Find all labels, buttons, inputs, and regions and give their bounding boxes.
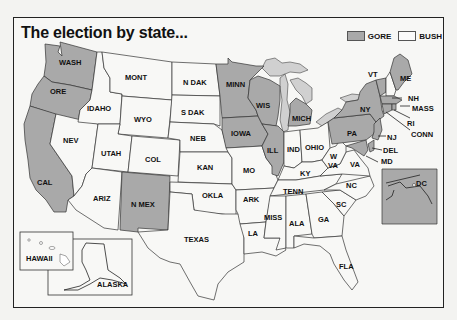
label-mich: MICH — [292, 114, 311, 123]
label-texas: TEXAS — [184, 235, 209, 244]
legend-swatch-gore — [347, 31, 365, 41]
label-wyo: WYO — [134, 115, 152, 124]
label-okla: OKLA — [202, 191, 224, 200]
label-alaska: ALASKA — [97, 280, 129, 289]
label-cal: CAL — [37, 178, 53, 187]
label-ohio: OHIO — [305, 143, 324, 152]
label-neb: NEB — [190, 134, 206, 143]
label-wash: WASH — [59, 58, 82, 67]
label-ark: ARK — [243, 195, 260, 204]
label-nev: NEV — [63, 136, 78, 145]
label-ariz: ARIZ — [93, 194, 111, 203]
label-dc: DC — [416, 179, 427, 188]
label-nh: NH — [408, 94, 419, 103]
label-nc: NC — [346, 181, 357, 190]
lake-huron — [290, 78, 312, 104]
label-wis: WIS — [256, 101, 270, 110]
label-vt: VT — [368, 70, 378, 79]
label-nj: NJ — [387, 133, 397, 142]
label-ndak: N DAK — [183, 78, 207, 87]
legend-swatch-bush — [398, 31, 416, 41]
label-conn: CONN — [411, 130, 433, 139]
label-la: LA — [248, 229, 259, 238]
label-nmex: N MEX — [131, 200, 155, 209]
label-fla: FLA — [339, 262, 354, 271]
label-sdak: S DAK — [181, 108, 205, 117]
label-ala: ALA — [289, 219, 305, 228]
label-wva-va: VA — [328, 161, 338, 170]
label-ga: GA — [318, 215, 330, 224]
label-ind: IND — [287, 145, 301, 154]
label-ill: ILL — [267, 146, 279, 155]
legend-label-gore: GORE — [368, 32, 392, 41]
label-pa: PA — [347, 129, 357, 138]
label-utah: UTAH — [101, 149, 121, 158]
label-ri: RI — [407, 119, 415, 128]
us-election-map: .g { fill:#a9a9a9; stroke:#333; stroke-w… — [0, 0, 457, 320]
label-sc: SC — [336, 200, 347, 209]
label-iowa: IOWA — [231, 129, 252, 138]
label-wva-w: W — [330, 152, 338, 161]
label-mass: MASS — [412, 104, 434, 113]
legend-label-bush: BUSH — [419, 32, 442, 41]
legend-item-bush: BUSH — [398, 31, 442, 41]
map-title: The election by state... — [21, 24, 188, 42]
label-ky: KY — [300, 169, 310, 178]
state-ri[interactable] — [392, 104, 396, 110]
label-kan: KAN — [197, 163, 213, 172]
label-tenn: TENN — [283, 187, 303, 196]
state-mass[interactable] — [380, 96, 402, 104]
label-miss: MISS — [264, 213, 282, 222]
label-del: DEL — [383, 146, 398, 155]
label-mo: MO — [243, 166, 255, 175]
label-mont: MONT — [125, 73, 147, 82]
label-hawaii: HAWAII — [26, 254, 53, 263]
legend: GORE BUSH — [340, 31, 442, 41]
legend-item-gore: GORE — [347, 31, 392, 41]
label-col: COL — [145, 155, 161, 164]
lake-superior — [262, 58, 308, 76]
label-me: ME — [400, 74, 411, 83]
label-va: VA — [350, 160, 360, 169]
label-ore: ORE — [50, 87, 66, 96]
label-minn: MINN — [226, 80, 245, 89]
label-md: MD — [381, 157, 393, 166]
label-idaho: IDAHO — [87, 104, 111, 113]
state-del[interactable] — [368, 140, 374, 152]
label-ny: NY — [360, 105, 370, 114]
